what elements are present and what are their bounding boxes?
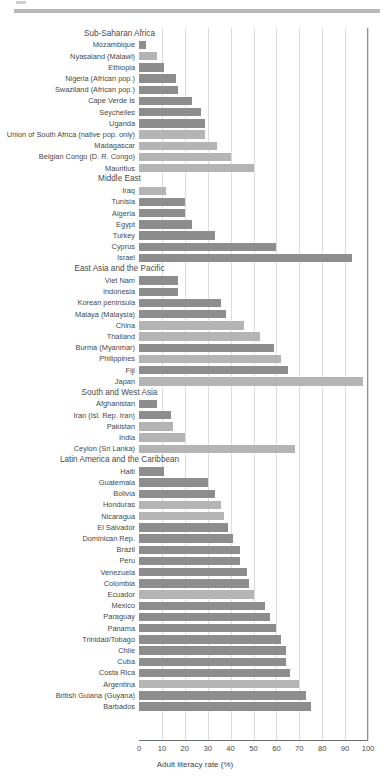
bar <box>139 52 157 60</box>
bar-row <box>139 544 368 555</box>
x-tick-label: 40 <box>219 744 243 753</box>
x-tick-label: 90 <box>333 744 357 753</box>
category-label: Malaya (Malaysia) <box>0 309 135 320</box>
bar <box>139 321 244 329</box>
x-tick-label: 30 <box>196 744 220 753</box>
category-label: Mauritius <box>0 163 135 174</box>
bar <box>139 187 166 195</box>
bar <box>139 646 286 654</box>
bar <box>139 276 178 284</box>
bar-row <box>139 353 368 364</box>
bar-row <box>139 39 368 50</box>
bar-row <box>139 219 368 230</box>
bar-row <box>139 499 368 510</box>
bar-row <box>139 376 368 387</box>
bar-row <box>139 95 368 106</box>
bar-row <box>139 443 368 454</box>
bar-row <box>139 511 368 522</box>
category-label: Trinidad/Tobago <box>0 634 135 645</box>
group-label: East Asia and the Pacific <box>0 264 239 273</box>
bar-row <box>139 667 368 678</box>
x-tick-label: 50 <box>242 744 266 753</box>
bar <box>139 557 240 565</box>
category-label: Seychelles <box>0 107 135 118</box>
category-label: Mozambique <box>0 39 135 50</box>
category-label: Colombia <box>0 578 135 589</box>
category-label: Dominican Rep. <box>0 533 135 544</box>
bar-row <box>139 555 368 566</box>
group-label: Sub-Saharan Africa <box>0 29 239 38</box>
bar-row <box>139 589 368 600</box>
bar <box>139 41 146 49</box>
corner-mark <box>16 1 26 4</box>
x-tick-label: 70 <box>287 744 311 753</box>
bar <box>139 355 281 363</box>
bar-row <box>139 107 368 118</box>
bar-row <box>139 208 368 219</box>
category-label: Guatemala <box>0 477 135 488</box>
bar-row <box>139 230 368 241</box>
category-label: China <box>0 320 135 331</box>
bar <box>139 198 185 206</box>
category-label: Algeria <box>0 208 135 219</box>
x-tick-label: 0 <box>127 744 151 753</box>
bar <box>139 130 205 138</box>
category-label: Cape Verde Is <box>0 95 135 106</box>
bar <box>139 400 157 408</box>
bar-row <box>139 342 368 353</box>
bar <box>139 153 231 161</box>
category-label: Nyasaland (Malawi) <box>0 51 135 62</box>
bar <box>139 108 201 116</box>
bar <box>139 613 270 621</box>
category-label: Cyprus <box>0 241 135 252</box>
category-label: Ecuador <box>0 589 135 600</box>
bar <box>139 209 185 217</box>
bar-row <box>139 51 368 62</box>
category-label: Chile <box>0 645 135 656</box>
category-label: Israel <box>0 252 135 263</box>
bar-row <box>139 701 368 712</box>
bar <box>139 512 224 520</box>
bar <box>139 299 221 307</box>
category-label: Haiti <box>0 466 135 477</box>
x-tick-label: 60 <box>264 744 288 753</box>
bar-row <box>139 690 368 701</box>
bar-row <box>139 151 368 162</box>
category-label: Iran (Isl. Rep. Iran) <box>0 410 135 421</box>
category-label: Barbados <box>0 701 135 712</box>
bar <box>139 288 178 296</box>
category-label: Fiji <box>0 365 135 376</box>
category-label: Panama <box>0 623 135 634</box>
bar <box>139 433 185 441</box>
bar-row <box>139 398 368 409</box>
category-label: Tunisia <box>0 196 135 207</box>
bar <box>139 332 260 340</box>
bar <box>139 411 171 419</box>
category-label: Nicaragua <box>0 511 135 522</box>
bar <box>139 310 226 318</box>
bar-row <box>139 62 368 73</box>
bar-row <box>139 320 368 331</box>
bar <box>139 568 247 576</box>
category-label: Egypt <box>0 219 135 230</box>
bar <box>139 680 299 688</box>
bar-row <box>139 241 368 252</box>
bar <box>139 344 274 352</box>
category-label: Pakistan <box>0 421 135 432</box>
category-label: Argentina <box>0 679 135 690</box>
bar <box>139 658 286 666</box>
bar-row <box>139 679 368 690</box>
bar-row <box>139 309 368 320</box>
category-label: Brazil <box>0 544 135 555</box>
bar <box>139 377 363 385</box>
category-label: Bolivia <box>0 488 135 499</box>
category-label: Paraguay <box>0 611 135 622</box>
plot-area <box>139 28 368 741</box>
bar-row <box>139 286 368 297</box>
bar-row <box>139 331 368 342</box>
bar <box>139 702 311 710</box>
category-label: Nigeria (African pop.) <box>0 73 135 84</box>
category-label: Ceylon (Sri Lanka) <box>0 443 135 454</box>
bar <box>139 534 233 542</box>
category-label: Thailand <box>0 331 135 342</box>
